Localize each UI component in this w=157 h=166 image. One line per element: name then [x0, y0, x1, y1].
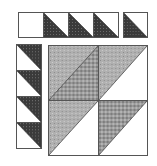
center-unit-bottom-right [98, 100, 148, 156]
left-column-unit-2-hst [16, 70, 42, 97]
left-column-unit-1-hst [16, 44, 42, 71]
top-row-unit-5-hst-separate [123, 12, 148, 38]
left-column-unit-3-hst [16, 96, 42, 123]
top-row-unit-4-hst [93, 12, 119, 38]
top-row-unit-1-plain [18, 12, 44, 38]
left-column-unit-4-hst [16, 122, 42, 149]
center-unit-bottom-left [48, 100, 99, 156]
top-row-unit-3-hst [68, 12, 94, 38]
center-unit-top-left [48, 45, 99, 101]
top-row-unit-2-hst [43, 12, 69, 38]
center-unit-top-right [98, 45, 148, 101]
